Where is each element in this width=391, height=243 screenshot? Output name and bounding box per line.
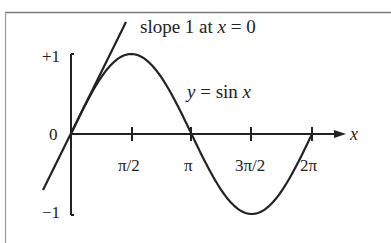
x-tick-label-pi-over-2: π/2: [118, 156, 140, 175]
y-tick-label-0: 0: [49, 125, 58, 144]
curve-label: y = sin x: [185, 81, 252, 102]
x-axis-label: x: [349, 124, 358, 144]
slope-annotation: slope 1 at x = 0: [140, 16, 256, 37]
y-tick-label-minus-1: −1: [42, 203, 60, 222]
x-tick-label-3pi-over-2: 3π/2: [235, 156, 265, 175]
x-tick-label-pi: π: [184, 156, 193, 175]
x-axis-arrow-icon: [334, 130, 346, 138]
y-tick-label-plus-1: +1: [42, 47, 60, 66]
sine-graph-figure: slope 1 at x = 0 y = sin x x +1 0 −1 π/2…: [0, 0, 391, 243]
x-tick-label-2pi: 2π: [300, 156, 318, 175]
